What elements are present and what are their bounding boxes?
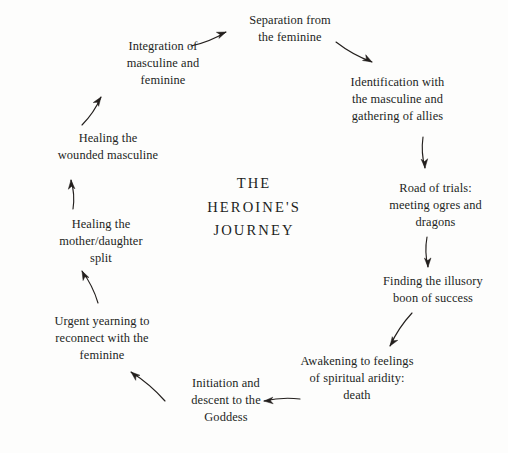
stage-label-separation-from-the-feminine: Separation from the feminine (225, 12, 355, 46)
arrow-urgent-to-healing-split (82, 271, 98, 303)
arrow-initiation-to-urgent (131, 372, 165, 401)
stage-label-integration-of-masculine-and-feminine: Integration of masculine and feminine (100, 38, 226, 89)
arrow-healing-split-to-healing-masculine (68, 180, 75, 209)
arrow-finding-to-awakening (390, 313, 412, 346)
stage-label-initiation-and-descent: Initiation and descent to the Goddess (166, 375, 286, 426)
stage-label-awakening-to-spiritual-aridity: Awakening to feelings of spiritual aridi… (282, 353, 432, 404)
stage-label-identification-with-the-masculine: Identification with the masculine and ga… (330, 74, 465, 125)
arrow-road-to-finding (424, 237, 431, 267)
stage-label-healing-the-mother-daughter-split: Healing the mother/daughter split (36, 216, 166, 267)
stage-label-road-of-trials: Road of trials: meeting ogres and dragon… (368, 180, 503, 231)
stage-label-finding-the-illusory-boon: Finding the illusory boon of success (362, 273, 504, 307)
stage-label-healing-the-wounded-masculine: Healing the wounded masculine (38, 130, 178, 164)
arrow-healing-masculine-to-integration (82, 97, 101, 125)
diagram-center-title: THE HEROINE'S JOURNEY (189, 172, 319, 243)
heroines-journey-diagram: THE HEROINE'S JOURNEY Separation from th… (0, 0, 508, 453)
stage-label-urgent-yearning-to-reconnect: Urgent yearning to reconnect with the fe… (32, 313, 172, 364)
arrow-identification-to-road (421, 137, 428, 168)
